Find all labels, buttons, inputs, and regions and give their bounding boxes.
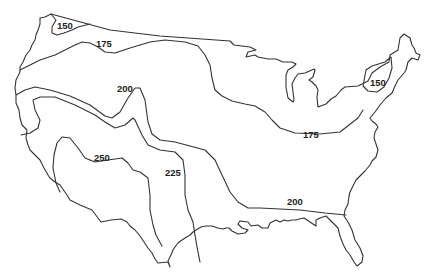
contour-label-250: 250 <box>94 152 110 163</box>
contour-175-west <box>20 40 363 134</box>
contour-label-150-east: 150 <box>370 77 386 88</box>
contour-map: 150 175 200 250 225 150 175 200 <box>0 0 441 280</box>
contour-label-225: 225 <box>165 167 182 178</box>
contour-label-200-west: 200 <box>117 83 133 94</box>
us-outline <box>15 14 420 267</box>
contour-label-150-west: 150 <box>57 20 73 31</box>
contour-label-200-east: 200 <box>287 196 303 207</box>
contour-label-175-west: 175 <box>96 38 113 49</box>
contour-label-175-east: 175 <box>303 129 320 140</box>
contour-225 <box>21 97 200 262</box>
